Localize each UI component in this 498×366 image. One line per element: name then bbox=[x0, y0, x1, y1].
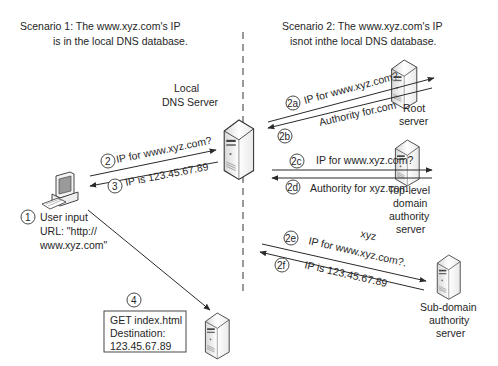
step-1-badge: 1 bbox=[25, 212, 31, 223]
xyz-label: xyz bbox=[360, 227, 378, 242]
step-2a-badge: 2a bbox=[287, 98, 299, 109]
step-2f-badge: 2f bbox=[277, 260, 286, 271]
tld-label-line3: authority bbox=[389, 210, 430, 222]
user-input-line2: URL: "http:// bbox=[40, 225, 97, 237]
message-step-2b: Authority for.com bbox=[318, 98, 398, 127]
user-input-line3: www.xyz.com" bbox=[39, 239, 108, 251]
step-2e-badge: 2e bbox=[285, 233, 297, 244]
scenario2-title-line1: Scenario 2: The www.xyz.com's IP bbox=[282, 20, 443, 32]
subdomain-server-icon bbox=[437, 255, 460, 299]
message-step-2c: IP for www.xyz.com? bbox=[316, 154, 413, 166]
user-computer-icon bbox=[42, 172, 78, 209]
dns-resolution-diagram: Scenario 1: The www.xyz.com's IP is in t… bbox=[0, 0, 498, 366]
tld-label-line4: server bbox=[396, 223, 426, 235]
user-input-line1: User input bbox=[40, 211, 88, 223]
subdomain-label-line1: Sub-domain bbox=[420, 301, 477, 313]
scenario1-title-line2: is in the local DNS database. bbox=[53, 35, 188, 47]
request-line2: Destination: bbox=[110, 327, 165, 339]
web-server-icon bbox=[205, 313, 229, 359]
step-3-badge: 3 bbox=[112, 181, 118, 192]
local-dns-label-line1: Local bbox=[174, 82, 199, 94]
step-2c-badge: 2c bbox=[291, 156, 302, 167]
message-step-2d: Authority for xyz.com bbox=[310, 182, 408, 194]
scenario2-title-line2: isnot inthe local DNS database. bbox=[290, 35, 437, 47]
local-dns-label-line2: DNS Server bbox=[162, 96, 219, 108]
subdomain-label-line2: authority bbox=[429, 314, 470, 326]
tld-label-line2: domain bbox=[393, 197, 428, 209]
step-2-badge: 2 bbox=[105, 156, 111, 167]
subdomain-label-line3: server bbox=[436, 327, 466, 339]
step-4-badge: 4 bbox=[131, 295, 137, 306]
request-line3: 123.45.67.89 bbox=[110, 340, 171, 352]
arrow-step-4 bbox=[88, 210, 210, 310]
scenario1-title-line1: Scenario 1: The www.xyz.com's IP bbox=[20, 20, 181, 32]
local-dns-server-icon bbox=[224, 120, 253, 179]
step-2b-badge: 2b bbox=[279, 131, 291, 142]
message-step-3: IP is 123.45.67.89 bbox=[124, 160, 209, 188]
step-2d-badge: 2d bbox=[287, 182, 298, 193]
root-label-line1: Root bbox=[403, 102, 425, 114]
root-label-line2: server bbox=[399, 115, 429, 127]
request-line1: GET index.html bbox=[110, 314, 182, 326]
